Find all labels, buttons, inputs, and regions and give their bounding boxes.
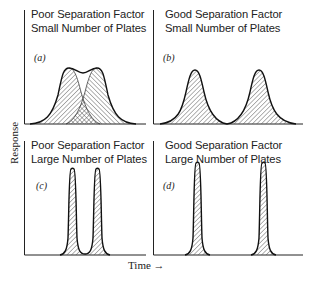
panel-c-peaks	[60, 168, 110, 255]
panel-c-title-line1: Poor Separation Factor	[31, 139, 144, 152]
panel-a-label: (a)	[34, 52, 46, 63]
y-axis-label: Response	[8, 122, 20, 164]
panel-a-title-line2: Small Number of Plates	[31, 22, 146, 35]
panel-c-label: (c)	[36, 180, 47, 191]
x-axis-label: Time →	[128, 259, 165, 271]
panel-c-title-line2: Large Number of Plates	[31, 153, 147, 166]
panel-b-title-line2: Small Number of Plates	[165, 22, 280, 35]
panel-d-label: (d)	[163, 180, 175, 191]
panel-a-title-line1: Poor Separation Factor	[31, 8, 144, 21]
panel-d-title-line1: Good Separation Factor	[165, 139, 282, 152]
panel-b-peaks	[160, 70, 296, 124]
panel-b-title-line1: Good Separation Factor	[165, 8, 282, 21]
panel-b-label: (b)	[163, 52, 175, 63]
panel-d-title-line2: Large Number of Plates	[165, 153, 281, 166]
panel-d-peaks	[185, 162, 276, 255]
panel-a-peaks	[30, 68, 136, 124]
